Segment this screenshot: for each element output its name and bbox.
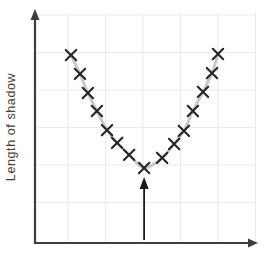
data-point-x-marker (92, 106, 102, 116)
data-point-x-marker (112, 138, 122, 148)
y-axis-label: Length of shadow (4, 73, 18, 181)
data-point-x-marker (102, 125, 112, 135)
data-point-x-marker (83, 88, 93, 98)
data-point-x-marker (75, 69, 85, 79)
data-point-x-marker (198, 87, 208, 97)
data-point-x-marker (169, 139, 179, 149)
shadow-length-chart: Length of shadow (0, 0, 267, 259)
chart-svg (0, 0, 267, 259)
data-point-x-marker (188, 106, 198, 116)
best-fit-curve (71, 54, 218, 168)
data-point-x-marker (66, 50, 76, 60)
annotation-arrow-head (140, 177, 149, 189)
data-point-x-marker (124, 150, 134, 160)
data-point-x-marker (157, 153, 167, 163)
x-axis-arrowhead (248, 239, 258, 248)
